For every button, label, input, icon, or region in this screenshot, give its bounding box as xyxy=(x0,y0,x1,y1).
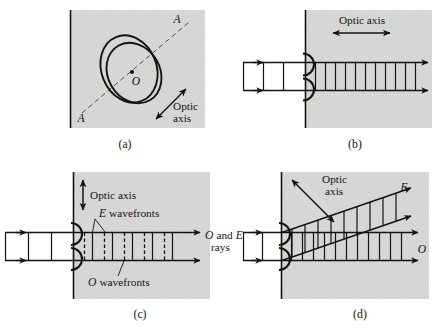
panel-a-axis-label-top: A xyxy=(172,13,181,26)
panel-d-id: (d) xyxy=(353,307,367,321)
panel-c-o-wavefronts-symbol: O xyxy=(88,276,97,289)
panel-b-optic-axis-label: Optic axis xyxy=(339,14,385,26)
panel-d-optic-axis-label-line2: axis xyxy=(325,185,343,197)
panel-c-rays-and: and xyxy=(216,229,233,241)
panel-c-optic-axis-label: Optic axis xyxy=(90,189,136,201)
panel-c-e-wavefronts-symbol: E xyxy=(98,207,106,220)
figure-canvas: A A O Optic axis (a) Optic axis xyxy=(0,0,435,331)
panel-a-center-dot xyxy=(130,70,134,74)
panel-b-crystal-region xyxy=(305,10,432,128)
panel-d-o-ray-label: O xyxy=(418,243,427,256)
panel-c-rays-label-line2: rays xyxy=(211,241,230,253)
panel-a-id: (a) xyxy=(118,137,131,151)
panel-a-optic-axis-label-line2: axis xyxy=(173,112,191,124)
figure-birefringence: A A O Optic axis (a) Optic axis xyxy=(0,0,435,331)
panel-d-optic-axis-label-line1: Optic xyxy=(322,173,347,185)
panel-d-e-ray-label: E xyxy=(399,181,407,194)
panel-b-id: (b) xyxy=(348,137,362,151)
panel-c-e-wavefronts-text: wavefronts xyxy=(109,207,159,219)
panel-a-center-label: O xyxy=(132,75,141,88)
panel-a-optic-axis-label-line1: Optic xyxy=(173,100,198,112)
panel-c-rays-e-symbol: E xyxy=(235,229,243,242)
panel-c-id: (c) xyxy=(133,307,146,321)
panel-c-o-wavefronts-text: wavefronts xyxy=(99,276,149,288)
panel-a-axis-label-bottom: A xyxy=(76,112,85,125)
